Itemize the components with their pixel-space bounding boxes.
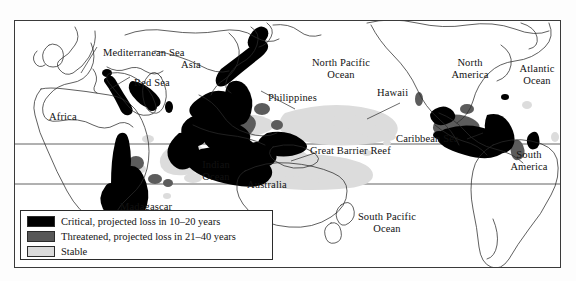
label-south-pacific-ocean: South Pacific Ocean <box>355 211 419 234</box>
label-north-america: North America <box>443 57 497 80</box>
legend-swatch-critical <box>27 216 55 227</box>
legend-label-threatened: Threatened, projected loss in 21–40 year… <box>61 231 236 242</box>
label-australia: Australia <box>247 179 287 190</box>
label-asia: Asia <box>181 59 201 70</box>
label-hawaii: Hawaii <box>377 87 408 98</box>
legend-swatch-stable <box>27 246 55 257</box>
label-great-barrier-reef: Great Barrier Reef <box>310 145 391 156</box>
label-atlantic-ocean: Atlantic Ocean <box>512 63 561 86</box>
legend-item-threatened: Threatened, projected loss in 21–40 year… <box>27 229 272 244</box>
label-philippines: Philippines <box>268 92 317 103</box>
label-indian-ocean: Indian Ocean <box>195 159 237 182</box>
label-north-pacific-ocean: North Pacific Ocean <box>309 57 373 80</box>
label-mediterranean-sea: Mediterranean Sea <box>103 47 185 58</box>
label-caribbean-sea: Caribbean Sea <box>396 133 459 144</box>
map-legend: Critical, projected loss in 10–20 years … <box>20 210 273 260</box>
label-africa: Africa <box>49 111 77 122</box>
legend-item-stable: Stable <box>27 244 272 259</box>
legend-swatch-threatened <box>27 231 55 242</box>
legend-label-stable: Stable <box>61 246 87 257</box>
legend-label-critical: Critical, projected loss in 10–20 years <box>61 216 220 227</box>
figure-container: Mediterranean Sea Red Sea Asia Africa Ma… <box>0 0 576 281</box>
label-south-america: South America <box>503 149 555 172</box>
legend-item-critical: Critical, projected loss in 10–20 years <box>27 214 272 229</box>
label-red-sea: Red Sea <box>134 77 170 88</box>
